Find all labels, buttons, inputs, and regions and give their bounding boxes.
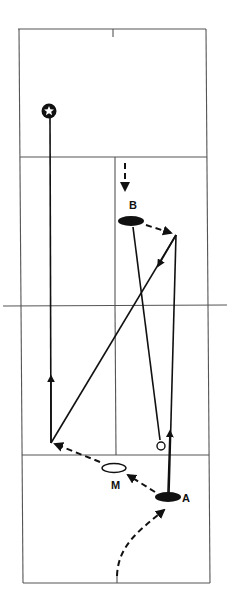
court-lines	[3, 29, 227, 583]
player-a-label: A	[182, 492, 190, 504]
target-star-icon	[42, 104, 57, 119]
movement-paths	[50, 118, 176, 576]
b-to-right-arrow	[146, 225, 171, 233]
net-line	[3, 305, 227, 306]
shuttle-icon	[157, 442, 165, 450]
player-m-marker	[102, 464, 126, 473]
diagonal-arrow	[158, 235, 176, 266]
bottom-center-line	[115, 306, 116, 455]
player-m-label: M	[111, 479, 120, 491]
diagonal-line	[51, 235, 176, 443]
player-b-label: B	[129, 199, 137, 211]
player-b-marker	[118, 216, 144, 226]
curve-to-a-arrow	[117, 510, 164, 576]
court-diagram: B A M	[0, 0, 240, 599]
b-to-shuttle-line	[133, 227, 160, 440]
m-to-left-arrow	[55, 444, 100, 462]
right-sideline	[206, 29, 210, 583]
a-to-m-arrow	[128, 475, 155, 492]
player-a-marker	[155, 492, 181, 502]
